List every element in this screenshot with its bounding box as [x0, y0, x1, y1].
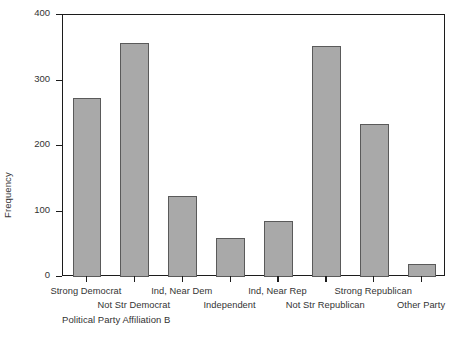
y-axis-tick: 300 — [0, 80, 62, 81]
y-axis-tick: 200 — [0, 145, 62, 146]
y-axis-label: Frequency — [2, 118, 16, 218]
x-axis-tick-mark — [373, 276, 374, 282]
y-axis-tick: 400 — [0, 14, 62, 15]
x-axis-category-label: Strong Republican — [313, 286, 433, 296]
x-axis-tick-mark — [182, 276, 183, 282]
x-axis-tick-mark — [134, 276, 135, 282]
x-axis-tick-mark — [325, 276, 326, 282]
x-axis-category-label: Other Party — [361, 300, 457, 310]
y-axis-tick-label: 100 — [34, 204, 50, 215]
y-axis-tick-label: 400 — [34, 7, 50, 18]
y-axis-tick-mark — [56, 276, 62, 277]
x-axis-tick-mark — [277, 276, 278, 282]
x-axis-label: Political Party Affiliation B — [62, 314, 170, 325]
bar — [360, 124, 389, 277]
bar — [264, 221, 293, 277]
bar-chart: Frequency 0100200300400 Strong DemocratN… — [0, 0, 457, 337]
y-axis-tick: 0 — [0, 276, 62, 277]
y-axis-tick-label: 200 — [34, 138, 50, 149]
plot-area — [62, 14, 445, 276]
x-axis-tick-mark — [421, 276, 422, 282]
y-axis-tick: 100 — [0, 211, 62, 212]
bar — [312, 46, 341, 277]
x-axis-tick-mark — [86, 276, 87, 282]
y-axis-tick-label: 0 — [45, 269, 50, 280]
bar — [120, 43, 149, 277]
x-axis-tick-mark — [230, 276, 231, 282]
y-axis-tick-label: 300 — [34, 73, 50, 84]
bar — [73, 98, 102, 277]
bar — [216, 238, 245, 277]
bar — [168, 196, 197, 277]
